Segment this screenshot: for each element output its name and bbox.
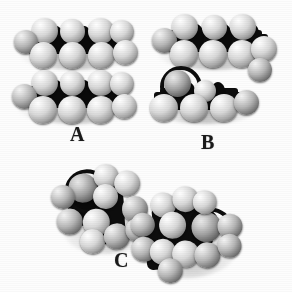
hydrogen-atom [164, 70, 191, 97]
hydrogen-atom [29, 96, 57, 124]
molecule-a-upper-chain [14, 18, 132, 70]
panel-b: B [146, 0, 292, 160]
hydrogen-atom [60, 71, 85, 96]
hydrogen-atom [113, 40, 138, 65]
hydrogen-atom [59, 42, 86, 69]
hydrogen-atom [170, 40, 198, 68]
molecule-c-right-branched [125, 180, 252, 286]
molecule-b-upper-chain [152, 14, 276, 70]
hydrogen-atom [58, 96, 86, 124]
hydrogen-atom [230, 14, 256, 40]
hydrogen-atom [180, 94, 208, 122]
hydrogen-atom [60, 19, 85, 44]
panel-label-a: A [70, 124, 84, 144]
molecule-b-lower-chain [148, 70, 260, 124]
panel-c: C [42, 158, 252, 292]
hydrogen-atom [150, 94, 178, 122]
hydrogen-atom [88, 42, 115, 69]
panel-a: A [0, 0, 146, 150]
hydrogen-atom [110, 72, 134, 96]
hydrogen-atom [234, 90, 259, 115]
hydrogen-atom [199, 40, 227, 68]
panel-label-b: B [201, 132, 214, 152]
panel-label-c: C [114, 250, 128, 270]
hydrogen-atom [87, 96, 115, 124]
figure-canvas: A [0, 0, 292, 292]
hydrogen-atom [202, 15, 227, 40]
molecule-a-lower-chain [12, 70, 134, 124]
hydrogen-atom [112, 94, 137, 119]
hydrogen-atom [30, 42, 57, 69]
